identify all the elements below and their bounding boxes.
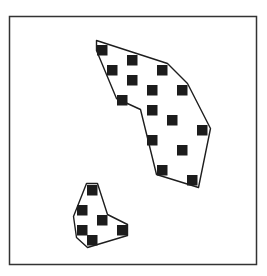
point-square — [107, 65, 118, 76]
point-square — [147, 105, 158, 116]
point-square — [77, 225, 88, 236]
point-square — [167, 115, 178, 126]
point-square — [177, 145, 188, 156]
point-square — [77, 205, 88, 216]
point-square — [127, 75, 138, 86]
diagram-canvas — [0, 0, 267, 276]
frame — [10, 17, 257, 265]
cluster-large — [97, 41, 211, 188]
point-square — [177, 85, 188, 96]
point-square — [127, 55, 138, 66]
clusters — [74, 41, 211, 248]
point-square — [87, 235, 98, 246]
point-square — [117, 225, 128, 236]
point-square — [157, 65, 168, 76]
point-square — [97, 215, 108, 226]
point-square — [117, 95, 128, 106]
point-square — [197, 125, 208, 136]
point-square — [157, 165, 168, 176]
point-square — [147, 85, 158, 96]
point-square — [87, 185, 98, 196]
cluster-small — [74, 184, 128, 248]
